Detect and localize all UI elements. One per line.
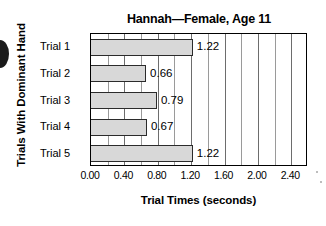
chart-page: Trials With Dominant Hand Hannah—Female,…: [0, 0, 326, 226]
y-axis-title: Trials With Dominant Hand: [10, 0, 32, 190]
x-tick-label-2: 0.80: [147, 169, 166, 181]
category-label-4: Trial 4: [40, 120, 86, 132]
value-label-1: 1.22: [197, 40, 219, 52]
category-label-5: Trial 5: [40, 147, 86, 159]
page-edge-marker-artifact: [0, 40, 9, 68]
category-label-3: Trial 3: [40, 94, 86, 106]
bar-5: [91, 145, 193, 162]
x-tick-label-3: 1.20: [181, 169, 200, 181]
bar-4: [91, 119, 147, 136]
bar-row: [91, 65, 306, 82]
y-axis-title-text: Trials With Dominant Hand: [15, 23, 27, 167]
value-label-2: 0.66: [150, 67, 172, 79]
bar-3: [91, 92, 157, 109]
category-label-2: Trial 2: [40, 67, 86, 79]
x-axis-title: Trial Times (seconds): [90, 194, 307, 206]
value-label-5: 1.22: [197, 147, 219, 159]
value-label-3: 0.79: [161, 94, 183, 106]
bar-1: [91, 39, 193, 56]
x-tick-label-0: 0.00: [80, 169, 99, 181]
bar-2: [91, 65, 146, 82]
x-tick-label-1: 0.40: [114, 169, 133, 181]
scan-speck-artifact: [316, 171, 318, 173]
scan-speck-artifact: [320, 181, 322, 183]
value-label-4: 0.67: [151, 120, 173, 132]
chart-title: Hannah—Female, Age 11: [90, 12, 308, 26]
bar-row: [91, 119, 306, 136]
x-tick-label-5: 2.00: [247, 169, 266, 181]
category-label-1: Trial 1: [40, 40, 86, 52]
bar-row: [91, 92, 306, 109]
x-tick-label-6: 2.40: [281, 169, 300, 181]
x-tick-label-4: 1.60: [214, 169, 233, 181]
